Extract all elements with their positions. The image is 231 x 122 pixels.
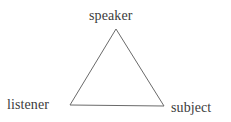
triangle-diagram: speaker listener subject xyxy=(0,0,231,122)
vertex-label-listener: listener xyxy=(7,98,49,112)
triangle-outline xyxy=(70,29,164,106)
vertex-label-speaker: speaker xyxy=(89,9,132,23)
vertex-label-subject: subject xyxy=(171,101,211,115)
